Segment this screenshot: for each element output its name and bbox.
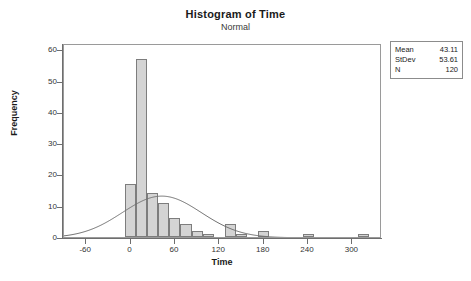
x-axis-tick <box>130 239 131 244</box>
y-axis-tick <box>57 175 62 176</box>
normal-distribution-curve <box>64 45 380 237</box>
x-axis-tick <box>351 239 352 244</box>
statistics-box: Mean43.11StDev53.61N120 <box>390 41 463 79</box>
x-axis-title: Time <box>63 257 381 267</box>
x-axis-tick <box>174 239 175 244</box>
stats-value: 53.61 <box>439 55 458 65</box>
plot-area <box>63 44 381 238</box>
x-axis-tick <box>85 239 86 244</box>
x-axis-tick-label: 240 <box>287 245 327 254</box>
x-axis-tick <box>307 239 308 244</box>
chart-title: Histogram of Time <box>0 8 471 20</box>
y-axis-tick <box>57 144 62 145</box>
histogram-chart: Histogram of Time Normal 0102030405060 -… <box>0 0 471 281</box>
x-axis-tick-label: 60 <box>154 245 194 254</box>
histogram-bar <box>358 234 369 237</box>
y-axis-tick-label: 30 <box>19 140 57 148</box>
y-axis-tick <box>57 207 62 208</box>
y-axis-tick <box>57 50 62 51</box>
histogram-bar <box>258 231 269 237</box>
stats-key: Mean <box>395 45 414 55</box>
stats-key: N <box>395 65 400 75</box>
y-axis-tick-label: 60 <box>19 46 57 54</box>
y-axis-tick-label: 40 <box>19 109 57 117</box>
stats-row: StDev53.61 <box>395 55 458 65</box>
y-axis-tick-label: 0 <box>19 234 57 242</box>
y-axis-tick-label: 20 <box>19 171 57 179</box>
x-axis-tick-label: 180 <box>243 245 283 254</box>
stats-key: StDev <box>395 55 415 65</box>
y-axis-tick <box>57 82 62 83</box>
histogram-bar <box>136 59 147 237</box>
histogram-bar <box>180 224 191 237</box>
stats-row: Mean43.11 <box>395 45 458 55</box>
histogram-bar <box>158 203 169 237</box>
histogram-bar <box>147 193 158 237</box>
x-axis-line <box>62 238 382 239</box>
histogram-bar <box>225 224 236 237</box>
chart-subtitle: Normal <box>0 22 471 32</box>
y-axis-tick-label: 10 <box>19 203 57 211</box>
histogram-bar <box>303 234 314 237</box>
y-axis-tick-label: 50 <box>19 78 57 86</box>
histogram-bar <box>169 218 180 237</box>
y-axis-title: Frequency <box>9 73 19 153</box>
x-axis-tick <box>263 239 264 244</box>
y-axis-tick <box>57 113 62 114</box>
x-axis-tick <box>218 239 219 244</box>
x-axis-tick-label: 0 <box>110 245 150 254</box>
x-axis-tick-label: 300 <box>331 245 371 254</box>
stats-row: N120 <box>395 65 458 75</box>
histogram-bar <box>192 231 203 237</box>
x-axis-tick-label: 120 <box>198 245 238 254</box>
histogram-bar <box>236 234 247 237</box>
stats-value: 120 <box>445 65 458 75</box>
histogram-bar <box>125 184 136 237</box>
stats-value: 43.11 <box>440 45 458 55</box>
histogram-bar <box>203 234 214 237</box>
y-axis-tick <box>57 238 62 239</box>
x-axis-tick-label: -60 <box>65 245 105 254</box>
